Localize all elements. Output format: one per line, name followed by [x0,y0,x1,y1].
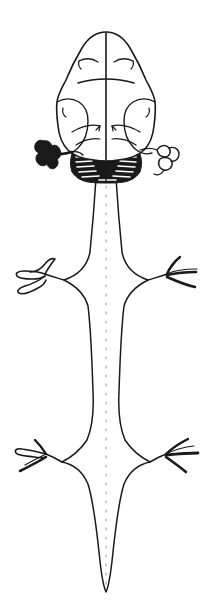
appendage-right-loop-lower [159,158,173,171]
cns-anatomical-illustration: Dorsal view of brain and spinal cord [0,0,212,614]
figure-root: Dorsal view of brain and spinal cord [0,0,212,614]
lumbar-right-stem [150,454,166,462]
lumbar-left-root-lower [20,457,46,471]
appendage-right-loop-upper [157,146,170,157]
nerve-roots-lumbar-left [15,440,62,471]
cervical-left-stem [45,274,64,280]
cervical-right-stem [148,274,167,280]
nerve-roots-cervical-right [148,257,197,287]
nerve-roots-cervical-left [16,259,64,294]
lumbar-left-stem [46,454,62,462]
appendage-right-group [140,146,179,175]
nerve-roots-lumbar-right [150,439,198,472]
lumbar-right-root-upper [166,439,188,454]
appendage-right-tail [154,170,164,175]
cerebrum-group [57,32,156,162]
appendage-right-connector [140,149,157,151]
lumbar-right-root-lower [166,457,186,472]
spinal-cord-group [62,178,150,592]
cervical-right-root-lower [167,277,195,287]
lumbar-right-root-middle [166,453,198,455]
